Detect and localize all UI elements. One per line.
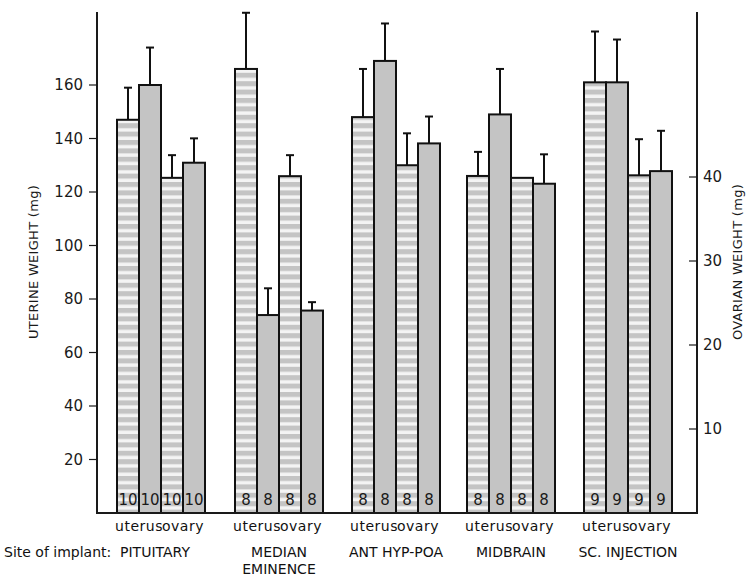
right-tick-label: 20 xyxy=(703,336,722,354)
left-tick-label: 160 xyxy=(54,76,83,94)
bar-group: 8888 xyxy=(467,69,555,513)
site-label: EMINENCE xyxy=(242,561,315,576)
n-label: 9 xyxy=(634,491,644,509)
left-tick-label: 60 xyxy=(64,344,83,362)
bar xyxy=(467,176,489,513)
n-label: 10 xyxy=(162,491,181,509)
n-label: 8 xyxy=(473,491,483,509)
n-label: 10 xyxy=(140,491,159,509)
left-tick-label: 20 xyxy=(64,451,83,469)
n-label: 8 xyxy=(307,491,317,509)
right-tick-label: 40 xyxy=(703,168,722,186)
left-tick-label: 40 xyxy=(64,397,83,415)
right-tick-label: 10 xyxy=(703,420,722,438)
n-label: 8 xyxy=(517,491,527,509)
uterus-label: uterus xyxy=(350,518,398,534)
n-label: 8 xyxy=(539,491,549,509)
bar xyxy=(489,114,511,513)
right-axis-title: OVARIAN WEIGHT (mg) xyxy=(730,184,745,340)
site-label: SC. INJECTION xyxy=(578,544,677,560)
x-axis-title: Site of implant: xyxy=(4,544,111,560)
n-label: 8 xyxy=(402,491,412,509)
n-label: 8 xyxy=(285,491,295,509)
n-label: 8 xyxy=(495,491,505,509)
uterus-label: uterus xyxy=(465,518,513,534)
left-ticks: 20406080100120140160 xyxy=(54,76,97,469)
n-label: 9 xyxy=(612,491,622,509)
bar xyxy=(301,311,323,513)
bar xyxy=(279,176,301,513)
bar xyxy=(374,61,396,513)
uterus-label: uterus xyxy=(582,518,630,534)
right-tick-label: 30 xyxy=(703,252,722,270)
n-label: 8 xyxy=(241,491,251,509)
n-label: 8 xyxy=(358,491,368,509)
n-label: 10 xyxy=(118,491,137,509)
n-label: 9 xyxy=(590,491,600,509)
uterus-label: uterus xyxy=(115,518,163,534)
left-tick-label: 80 xyxy=(64,290,83,308)
bar-group: 10101010 xyxy=(117,48,205,513)
bar xyxy=(117,120,139,513)
n-label: 10 xyxy=(184,491,203,509)
bar-group: 9999 xyxy=(584,32,672,514)
uterus-label: uterus xyxy=(233,518,281,534)
bars: 101010108888888888889999 xyxy=(117,13,672,513)
bar xyxy=(235,69,257,513)
bar xyxy=(511,178,533,513)
bar xyxy=(628,175,650,513)
n-label: 8 xyxy=(380,491,390,509)
site-label: MIDBRAIN xyxy=(476,544,546,560)
bar-chart: 101010108888888888889999 204060801001201… xyxy=(0,0,750,576)
bar-group: 8888 xyxy=(352,23,440,513)
bar xyxy=(396,165,418,513)
ovary-label: ovary xyxy=(162,518,204,534)
left-tick-label: 140 xyxy=(54,130,83,148)
site-label: PITUITARY xyxy=(120,544,190,560)
n-label: 9 xyxy=(656,491,666,509)
bar xyxy=(257,315,279,513)
left-tick-label: 120 xyxy=(54,183,83,201)
bar xyxy=(139,85,161,513)
bar xyxy=(418,143,440,513)
bar xyxy=(183,163,205,513)
bar xyxy=(533,184,555,513)
ovary-label: ovary xyxy=(512,518,554,534)
n-label: 8 xyxy=(263,491,273,509)
site-label: ANT HYP-POA xyxy=(349,544,444,560)
bar xyxy=(352,117,374,513)
left-axis-title: UTERINE WEIGHT (mg) xyxy=(26,185,41,339)
bar xyxy=(650,171,672,513)
x-labels: uterusovaryPITUITARYuterusovaryMEDIANEMI… xyxy=(115,518,678,576)
bar xyxy=(584,82,606,513)
ovary-label: ovary xyxy=(397,518,439,534)
bar xyxy=(606,82,628,513)
left-tick-label: 100 xyxy=(54,237,83,255)
ovary-label: ovary xyxy=(629,518,671,534)
site-label: MEDIAN xyxy=(251,544,307,560)
right-ticks: 10203040 xyxy=(689,168,722,438)
ovary-label: ovary xyxy=(280,518,322,534)
n-label: 8 xyxy=(424,491,434,509)
bar xyxy=(161,178,183,513)
bar-group: 8888 xyxy=(235,13,323,513)
